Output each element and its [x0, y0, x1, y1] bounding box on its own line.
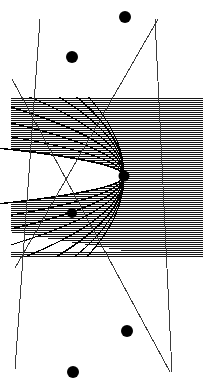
dot-lower-right [121, 325, 133, 337]
dot-bottom [67, 366, 79, 378]
figure-svg [0, 0, 210, 387]
dot-focus [119, 171, 130, 182]
dot-top [119, 11, 131, 23]
dot-lower-left [67, 208, 77, 218]
dot-upper-left [66, 51, 78, 63]
figure-canvas [0, 0, 210, 387]
